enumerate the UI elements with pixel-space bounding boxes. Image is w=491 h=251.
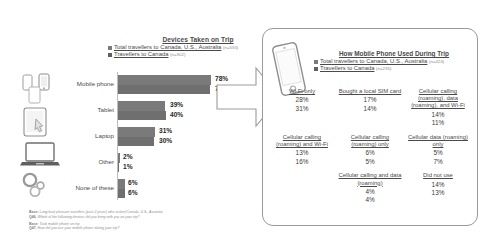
bar-category-label: None of these (54, 184, 114, 191)
bar-canada (118, 189, 125, 199)
footnote-text: How did you use your mobile phone during… (38, 226, 120, 230)
usage-row: Wi-Fi only 28% 31% Bought a local SIM ca… (268, 88, 472, 128)
usage-cell-wifi-only: Wi-Fi only 28% 31% (268, 88, 336, 128)
bar-row-other: Other 2% 1% (60, 150, 230, 176)
usage-cell-label: Bought a local SIM card (338, 88, 402, 95)
usage-cell-label: Cellular calling (roaming) and Wi-Fi (270, 134, 334, 148)
bar-category-label: Other (54, 158, 114, 165)
legend-base-n: (n=555) (223, 45, 238, 50)
footnote-tag: Base: (29, 222, 39, 226)
usage-cell-value-total: 4% (338, 188, 402, 197)
bar-group (118, 179, 125, 198)
usage-cell-value-canada: 13% (406, 189, 470, 198)
devices-bar-chart: Mobile phone 78% 77% Tablet 39% 40% Lapt… (60, 72, 230, 202)
usage-cell-value-total: 14% (406, 111, 470, 120)
bar-value-labels: 31% 30% (159, 126, 172, 146)
bar-canada (118, 163, 119, 173)
usage-cell-calling-data-wifi: Cellular calling (roaming), data (roamin… (404, 88, 472, 128)
usage-cell-label: Cellular calling and data (roaming) (338, 172, 402, 186)
right-panel-title: How Mobile Phone Used During Trip (316, 50, 472, 57)
usage-cell-value-total: 5% (406, 149, 470, 158)
legend-base-n: (n=235) (376, 66, 391, 71)
legend-label-total: Total travellers to Canada, U.S., Austra… (320, 59, 444, 65)
slide-canvas: Devices Taken on Trip Total travellers t… (0, 0, 491, 251)
legend-swatch-canada (108, 53, 112, 57)
bar-category-label: Tablet (54, 106, 114, 113)
usage-cell-value-canada: 16% (270, 158, 334, 167)
legend-item: Total travellers to Canada, U.S., Austra… (314, 59, 478, 65)
usage-cell-local-sim: Bought a local SIM card 17% 14% (336, 88, 404, 128)
usage-cell-label: Cellular calling (roaming), data (roamin… (406, 88, 470, 110)
usage-cell-value-total: 6% (338, 149, 402, 158)
bar-canada (118, 111, 166, 121)
usage-cell-value-total: 14% (406, 181, 470, 190)
footnote-tag: Q46. (29, 215, 37, 219)
usage-cell-did-not-use: Did not use 14% 13% (404, 172, 472, 205)
bar-row-none-of-these: None of these 6% 6% (60, 176, 230, 202)
footnote-line: Q47. How did you use your mobile phone d… (29, 226, 279, 231)
bar-value-labels: 2% 1% (123, 152, 133, 172)
legend-label-canada: Travellers to Canada (n=302) (114, 52, 185, 58)
legend-base-n: (n=424) (429, 59, 444, 64)
usage-cell-label: Did not use (406, 172, 470, 179)
footnote-tag: Q47. (29, 226, 37, 230)
bar-row-tablet: Tablet 39% 40% (60, 98, 230, 124)
usage-cell-calling-and-wifi: Cellular calling (roaming) and Wi-Fi 13%… (268, 134, 336, 167)
bar-value-labels: 39% 40% (170, 100, 183, 120)
legend-base-n: (n=302) (170, 52, 185, 57)
usage-cell-label: Cellular calling (roaming) only (338, 134, 402, 148)
usage-cell-value-canada: 14% (338, 105, 402, 114)
usage-cell-value-canada: 5% (338, 158, 402, 167)
footnote-text: Long-haul pleasure travellers (past 2 ye… (40, 210, 163, 214)
usage-cell-value-total: 13% (270, 149, 334, 158)
footnote-tag: Base: (29, 210, 39, 214)
usage-grid: Wi-Fi only 28% 31% Bought a local SIM ca… (268, 88, 472, 205)
usage-cell-value-canada: 31% (270, 105, 334, 114)
left-chart-title: Devices Taken on Trip (128, 36, 268, 43)
right-panel-legend: Total travellers to Canada, U.S., Austra… (314, 59, 478, 74)
bar-canada (118, 85, 210, 95)
bar-value-labels: 6% 6% (128, 178, 138, 198)
legend-label-total: Total travellers to Canada, U.S., Austra… (114, 45, 238, 51)
usage-cell-value-total: 17% (338, 96, 402, 105)
usage-row: Cellular calling and data (roaming) 4% 4… (268, 172, 472, 205)
usage-cell-calling-and-data: Cellular calling and data (roaming) 4% 4… (336, 172, 404, 205)
footnote-text: Took mobile phone on trip (40, 222, 80, 226)
usage-cell-data-only: Cellular data (roaming) only 5% 7% (404, 134, 472, 167)
legend-swatch-total (108, 46, 112, 50)
bar-total (118, 179, 125, 189)
usage-cell-calling-only: Cellular calling (roaming) only 6% 5% (336, 134, 404, 167)
usage-cell-value-canada: 4% (338, 196, 402, 205)
usage-cell-value-canada: 7% (406, 158, 470, 167)
usage-cell-value-canada: 11% (406, 119, 470, 128)
legend-item: Travellers to Canada (n=235) (314, 66, 478, 72)
bar-row-laptop: Laptop 31% 30% (60, 124, 230, 150)
bar-group (118, 153, 120, 172)
laptop-icon (19, 140, 65, 174)
bar-category-label: Laptop (54, 132, 114, 139)
bar-canada (118, 137, 154, 147)
usage-cell-value-total: 28% (270, 96, 334, 105)
usage-row: Cellular calling (roaming) and Wi-Fi 13%… (268, 134, 472, 167)
usage-cell-label: Wi-Fi only (270, 88, 334, 95)
bar-category-label: Mobile phone (54, 80, 114, 87)
bar-total (118, 75, 211, 85)
bar-group (118, 75, 211, 94)
bar-total (118, 153, 120, 163)
legend-swatch-total (314, 60, 318, 64)
bar-total (118, 127, 155, 137)
bar-total (118, 101, 165, 111)
legend-label-canada: Travellers to Canada (n=235) (320, 66, 391, 72)
footnotes: Base: Long-haul pleasure travellers (pas… (29, 210, 279, 231)
footnote-text: Which of the following devices did you b… (38, 215, 140, 219)
bar-group (118, 101, 166, 120)
bar-row-mobile-phone: Mobile phone 78% 77% (60, 72, 230, 98)
bar-group (118, 127, 155, 146)
legend-swatch-canada (314, 67, 318, 71)
usage-cell-label: Cellular data (roaming) only (406, 134, 470, 148)
